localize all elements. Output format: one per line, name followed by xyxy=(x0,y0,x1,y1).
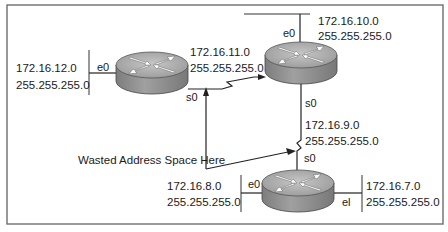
mask-label: 255.255.255.0 xyxy=(366,196,440,208)
interface-label-e1: el xyxy=(342,196,351,208)
mask-label: 255.255.255.0 xyxy=(318,30,392,42)
interface-label-s0: s0 xyxy=(186,91,198,103)
network-label: 172.16.7.0 xyxy=(366,180,420,192)
network-label: 172.16.8.0 xyxy=(167,180,221,192)
serial-link-bc xyxy=(297,84,301,178)
mask-label: 255.255.255.0 xyxy=(190,62,264,74)
mask-label: 255.255.255.0 xyxy=(167,196,241,208)
router-icon xyxy=(116,52,188,94)
network-label: 172.16.12.0 xyxy=(16,62,77,74)
mask-label: 255.255.255.0 xyxy=(16,79,90,91)
router-icon xyxy=(262,170,334,212)
mask-label: 255.255.255.0 xyxy=(305,135,379,147)
wasted-address-annotation: Wasted Address Space Here xyxy=(78,154,225,166)
interface-label-e0: e0 xyxy=(248,178,260,190)
interface-label-s0: s0 xyxy=(304,152,316,164)
serial-link-ab xyxy=(188,77,258,89)
network-diagram: 172.16.12.0 255.255.255.0 e0 s0 172.16.1… xyxy=(0,0,448,232)
router-icon xyxy=(265,42,337,84)
network-label: 172.16.10.0 xyxy=(318,15,379,27)
interface-label-e0: e0 xyxy=(97,61,109,73)
network-label: 172.16.9.0 xyxy=(305,119,359,131)
interface-label-s0: s0 xyxy=(305,97,317,109)
interface-label-e0: e0 xyxy=(283,27,295,39)
network-label: 172.16.11.0 xyxy=(190,46,250,58)
